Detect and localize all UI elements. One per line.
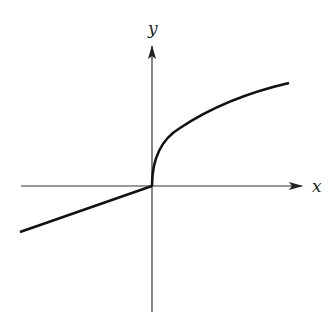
curve-right-sqrt (152, 83, 289, 186)
x-axis-label: x (312, 176, 322, 196)
function-graph: y x (0, 0, 334, 324)
y-axis-label: y (148, 18, 158, 38)
curve-left-linear (20, 186, 152, 232)
graph-canvas (0, 0, 334, 324)
